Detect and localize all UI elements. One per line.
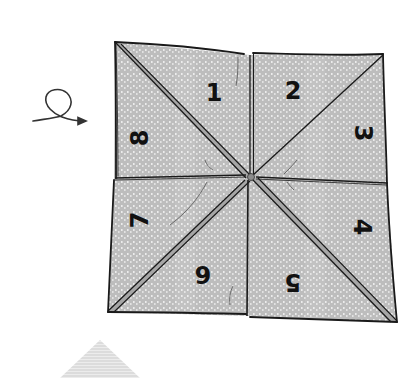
flap-number-6: 6 <box>195 260 212 288</box>
center-point <box>248 174 255 181</box>
turn-over-loop-arrow-icon <box>33 90 86 125</box>
flap-number-5: 5 <box>285 268 302 296</box>
flap-number-8: 8 <box>126 130 154 147</box>
flap-number-3: 3 <box>349 125 377 142</box>
flap-number-7: 7 <box>126 212 154 229</box>
flap-number-1: 1 <box>206 79 223 107</box>
next-step-triangle <box>60 340 140 378</box>
flap-number-4: 4 <box>348 219 376 236</box>
flap-number-2: 2 <box>285 77 302 105</box>
fortune-teller-diagram: 1 2 3 4 5 6 7 8 <box>0 0 419 378</box>
